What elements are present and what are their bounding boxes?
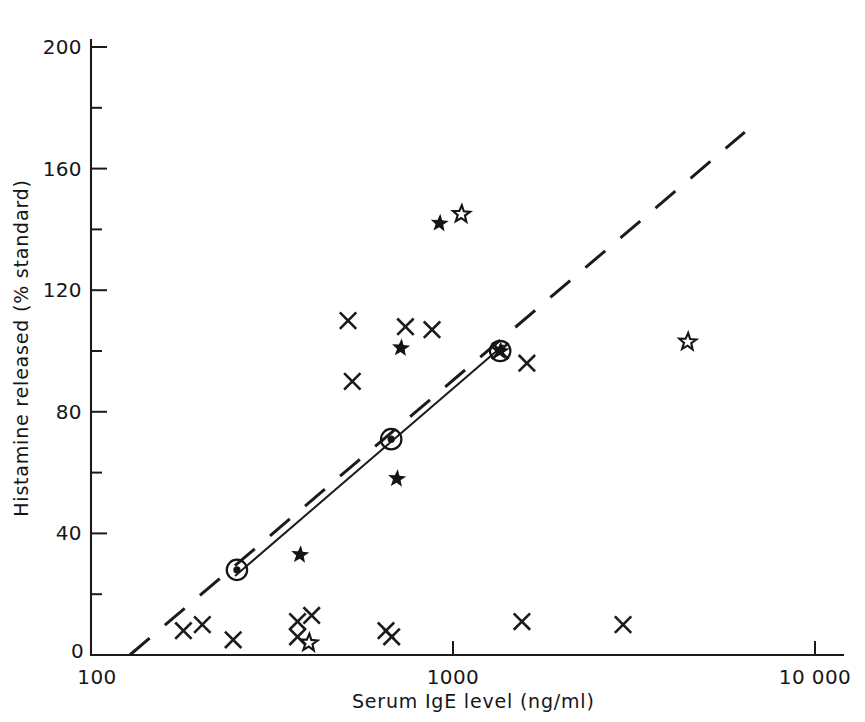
y-tick-label: 200 (43, 35, 82, 59)
marker-circled-dot (490, 341, 510, 361)
regression-fit (235, 345, 504, 576)
marker-cross (519, 355, 535, 371)
reference-trend (130, 132, 745, 655)
trend-lines (130, 132, 745, 655)
marker-cross (225, 632, 241, 648)
y-tick-label: 120 (43, 278, 82, 302)
marker-star-filled (388, 469, 406, 487)
y-axis-ticks: 04080120160200 (43, 35, 107, 663)
marker-cross (194, 616, 210, 632)
series-filled-star (291, 214, 509, 563)
marker-cross (424, 322, 440, 338)
marker-cross (514, 613, 530, 629)
data-points (175, 205, 696, 650)
marker-star-open (453, 205, 470, 222)
x-axis-ticks: 100100010 000 (77, 641, 851, 689)
marker-cross (397, 318, 413, 334)
series-cross (175, 312, 631, 648)
plot-axes (91, 40, 843, 655)
y-tick-label: 160 (43, 157, 82, 181)
marker-star-filled (431, 214, 449, 232)
marker-cross (175, 622, 191, 638)
x-axis-title: Serum IgE level (ng/ml) (352, 690, 595, 712)
marker-star-open (301, 634, 318, 651)
marker-star-filled (392, 338, 410, 356)
marker-cross (383, 629, 399, 645)
y-tick-label: 0 (71, 639, 84, 663)
x-tick-label: 1000 (427, 665, 480, 689)
marker-cross (340, 312, 356, 328)
marker-cross (289, 613, 305, 629)
marker-cross (344, 373, 360, 389)
marker-star-open (679, 333, 696, 350)
x-tick-label: 10 000 (779, 665, 851, 689)
marker-cross (303, 607, 319, 623)
y-tick-label: 40 (56, 521, 82, 545)
scatter-plot: 04080120160200 100100010 000 Serum IgE l… (0, 0, 865, 722)
y-axis-title: Histamine released (% standard) (10, 179, 32, 517)
x-tick-label: 100 (77, 665, 116, 689)
figure-panel: 04080120160200 100100010 000 Serum IgE l… (0, 0, 865, 722)
marker-cross (615, 616, 631, 632)
marker-star-filled (291, 545, 309, 563)
series-open-star (301, 205, 697, 650)
y-tick-label: 80 (56, 400, 82, 424)
